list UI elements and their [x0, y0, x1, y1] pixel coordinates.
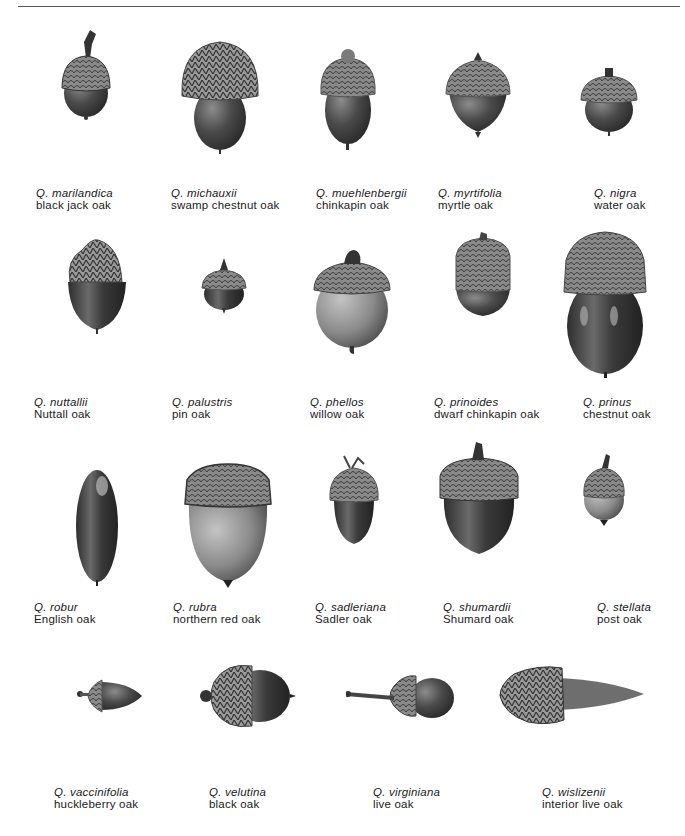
acorn-image-wislizenii	[498, 664, 646, 728]
common-name: northern red oak	[173, 613, 261, 625]
common-name: water oak	[594, 199, 646, 211]
species-label: Q. palustris pin oak	[172, 396, 233, 420]
acorn-image-sadleriana	[326, 454, 382, 550]
header-rule	[18, 6, 680, 7]
scientific-name: Q. marilandica	[36, 187, 113, 199]
scientific-name: Q. virginiana	[373, 786, 440, 798]
acorn-image-michauxii	[178, 38, 262, 156]
common-name: live oak	[373, 798, 440, 810]
scientific-name: Q. rubra	[173, 601, 261, 613]
acorn-image-nigra	[578, 66, 640, 138]
acorn-image-stellata	[580, 452, 628, 528]
species-label: Q. michauxii swamp chestnut oak	[171, 187, 279, 211]
species-label: Q. velutina black oak	[209, 786, 266, 810]
species-label: Q. shumardii Shumard oak	[443, 601, 514, 625]
acorn-image-virginiana	[346, 672, 458, 720]
acorn-image-prinus	[562, 230, 648, 378]
common-name: English oak	[34, 613, 96, 625]
scientific-name: Q. nuttallii	[34, 396, 91, 408]
scientific-name: Q. prinoides	[434, 396, 539, 408]
species-label: Q. virginiana live oak	[373, 786, 440, 810]
species-label: Q. wislizenii interior live oak	[542, 786, 623, 810]
scientific-name: Q. prinus	[583, 396, 651, 408]
scientific-name: Q. vaccinifolia	[54, 786, 138, 798]
acorn-image-prinoides	[452, 232, 514, 320]
common-name: swamp chestnut oak	[171, 199, 279, 211]
acorn-image-myrtifolia	[443, 52, 513, 138]
acorn-image-nuttallii	[62, 236, 132, 336]
common-name: post oak	[597, 613, 651, 625]
species-label: Q. prinus chestnut oak	[583, 396, 651, 420]
species-label: Q. robur English oak	[34, 601, 96, 625]
scientific-name: Q. velutina	[209, 786, 266, 798]
common-name: black oak	[209, 798, 266, 810]
scientific-name: Q. nigra	[594, 187, 646, 199]
species-label: Q. sadleriana Sadler oak	[315, 601, 386, 625]
common-name: chestnut oak	[583, 408, 651, 420]
species-label: Q. myrtifolia myrtle oak	[438, 187, 502, 211]
acorn-image-palustris	[198, 258, 250, 316]
species-label: Q. rubra northern red oak	[173, 601, 261, 625]
common-name: Shumard oak	[443, 613, 514, 625]
common-name: Nuttall oak	[34, 408, 91, 420]
common-name: Sadler oak	[315, 613, 386, 625]
common-name: huckleberry oak	[54, 798, 138, 810]
scientific-name: Q. myrtifolia	[438, 187, 502, 199]
scientific-name: Q. phellos	[310, 396, 364, 408]
scientific-name: Q. robur	[34, 601, 96, 613]
common-name: black jack oak	[36, 199, 113, 211]
acorn-image-muehlenbergii	[315, 44, 381, 154]
scientific-name: Q. palustris	[172, 396, 233, 408]
scientific-name: Q. michauxii	[171, 187, 279, 199]
species-label: Q. nigra water oak	[594, 187, 646, 211]
acorn-image-phellos	[312, 250, 392, 356]
scientific-name: Q. muehlenbergii	[316, 187, 407, 199]
acorn-image-shumardii	[438, 442, 520, 558]
acorn-image-velutina	[196, 660, 296, 732]
common-name: interior live oak	[542, 798, 623, 810]
scientific-name: Q. wislizenii	[542, 786, 623, 798]
species-label: Q. phellos willow oak	[310, 396, 364, 420]
scientific-name: Q. stellata	[597, 601, 651, 613]
common-name: willow oak	[310, 408, 364, 420]
acorn-image-marilandica	[56, 28, 116, 124]
species-label: Q. muehlenbergii chinkapin oak	[316, 187, 407, 211]
common-name: pin oak	[172, 408, 233, 420]
common-name: chinkapin oak	[316, 199, 407, 211]
common-name: myrtle oak	[438, 199, 502, 211]
species-label: Q. vaccinifolia huckleberry oak	[54, 786, 138, 810]
species-label: Q. stellata post oak	[597, 601, 651, 625]
species-label: Q. prinoides dwarf chinkapin oak	[434, 396, 539, 420]
species-label: Q. nuttallii Nuttall oak	[34, 396, 91, 420]
acorn-image-vaccinifolia	[72, 676, 146, 716]
scientific-name: Q. sadleriana	[315, 601, 386, 613]
acorn-image-rubra	[183, 462, 273, 590]
acorn-image-robur	[72, 468, 122, 588]
species-label: Q. marilandica black jack oak	[36, 187, 113, 211]
scientific-name: Q. shumardii	[443, 601, 514, 613]
common-name: dwarf chinkapin oak	[434, 408, 539, 420]
